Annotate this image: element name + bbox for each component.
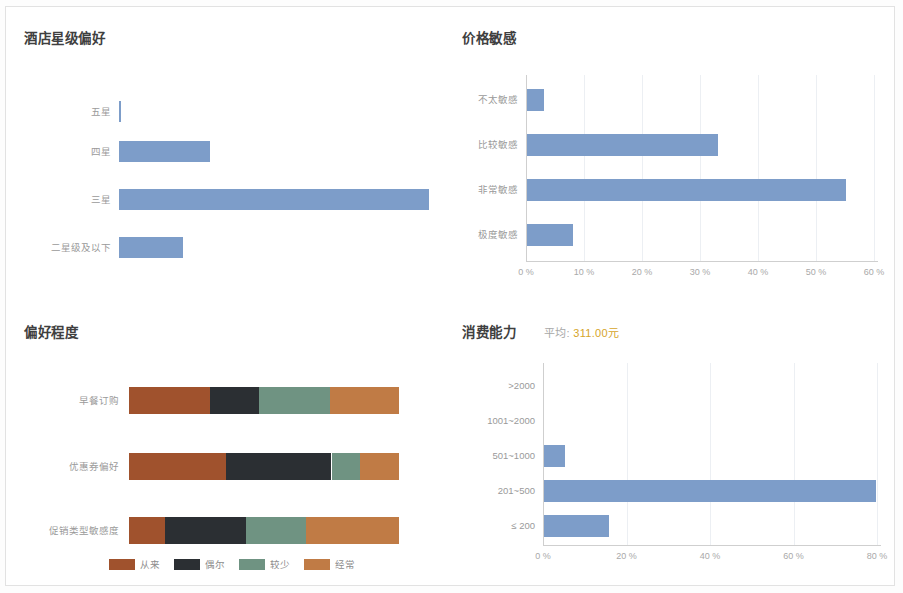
tick-label-price_sensitivity-1: 10 % <box>564 267 604 277</box>
gridline-80 <box>877 363 878 545</box>
legend-label-1: 偶尔 <box>205 557 225 571</box>
x-axis <box>543 545 881 546</box>
legend-label-2: 较少 <box>270 557 290 571</box>
gridline-40 <box>710 363 711 545</box>
tick-label-price_sensitivity-3: 30 % <box>680 267 720 277</box>
x-axis <box>526 261 878 262</box>
category-label-spending_power-0: >2000 <box>452 381 535 391</box>
tick-label-price_sensitivity-0: 0 % <box>506 267 546 277</box>
tick-label-spending_power-4: 80 % <box>857 551 897 561</box>
bar-spending_power-2 <box>544 445 565 467</box>
bar-spending_power-3 <box>544 480 876 502</box>
category-label-hotel-star-0: 五星 <box>14 107 111 117</box>
stack-segment-2-0 <box>129 517 165 544</box>
bar-spending_power-4 <box>544 515 609 537</box>
stacked-bar-row-1 <box>129 453 399 480</box>
legend-item-0[interactable]: 从来 <box>109 557 160 571</box>
legend-preference-degree: 从来偶尔较少经常 <box>14 557 450 571</box>
stack-segment-2-2 <box>246 517 305 544</box>
stack-segment-2-1 <box>165 517 246 544</box>
gridline-30 <box>700 75 701 261</box>
gridline-60 <box>794 363 795 545</box>
chart-price-sensitivity: 不太敏感比较敏感非常敏感极度敏感0 %10 %20 %30 %40 %50 %6… <box>452 75 888 297</box>
stack-segment-0-1 <box>210 387 259 414</box>
gridline-50 <box>816 75 817 261</box>
panel-spending-power: 消费能力 平均: 311.00元 >20001001~2000501~10002… <box>452 307 888 585</box>
legend-item-1[interactable]: 偶尔 <box>174 557 225 571</box>
stacked-bar-row-2 <box>129 517 399 544</box>
category-label-hotel-star-2: 三星 <box>14 195 111 205</box>
gridline-10 <box>584 75 585 261</box>
bar-hotel-star-3 <box>119 237 183 258</box>
category-label-price_sensitivity-0: 不太敏感 <box>452 95 518 105</box>
legend-item-2[interactable]: 较少 <box>239 557 290 571</box>
stacked-bar-row-0 <box>129 387 399 414</box>
category-label-spending_power-2: 501~1000 <box>452 451 535 461</box>
spending-average: 平均: 311.00元 <box>544 324 619 340</box>
panel-price-sensitivity: 价格敏感 不太敏感比较敏感非常敏感极度敏感0 %10 %20 %30 %40 %… <box>452 13 888 305</box>
category-label-preference-2: 促销类型敏感度 <box>14 526 119 536</box>
spending-average-unit: 元 <box>608 327 619 339</box>
category-label-spending_power-3: 201~500 <box>452 486 535 496</box>
category-label-hotel-star-1: 四星 <box>14 147 111 157</box>
stack-segment-1-0 <box>129 453 226 480</box>
tick-label-spending_power-1: 20 % <box>607 551 647 561</box>
category-label-spending_power-4: ≤ 200 <box>452 521 535 531</box>
category-label-preference-1: 优惠券偏好 <box>14 462 119 472</box>
panel-title-preference-degree: 偏好程度 <box>24 321 78 341</box>
stack-segment-2-3 <box>306 517 399 544</box>
category-label-preference-0: 早餐订购 <box>14 396 119 406</box>
bar-hotel-star-0 <box>119 101 121 122</box>
stack-segment-1-1 <box>226 453 331 480</box>
gridline-20 <box>627 363 628 545</box>
chart-hotel-star: 五星四星三星二星级及以下 <box>14 79 450 269</box>
dashboard-card: 酒店星级偏好 五星四星三星二星级及以下 价格敏感 不太敏感比较敏感非常敏感极度敏… <box>5 6 895 586</box>
category-label-price_sensitivity-3: 极度敏感 <box>452 230 518 240</box>
spending-average-value: 311.00 <box>573 327 608 339</box>
bar-price_sensitivity-0 <box>527 89 544 111</box>
tick-label-price_sensitivity-4: 40 % <box>738 267 778 277</box>
bar-hotel-star-2 <box>119 189 429 210</box>
panel-preference-degree: 偏好程度 早餐订购优惠券偏好促销类型敏感度 从来偶尔较少经常 <box>14 307 450 585</box>
legend-swatch-1 <box>174 559 200 570</box>
chart-spending-power: >20001001~2000501~1000201~500≤ 2000 %20 … <box>452 363 888 581</box>
legend-swatch-2 <box>239 559 265 570</box>
bar-hotel-star-1 <box>119 141 210 162</box>
stack-segment-0-3 <box>330 387 399 414</box>
panel-hotel-star: 酒店星级偏好 五星四星三星二星级及以下 <box>14 13 450 305</box>
panel-title-price-sensitivity: 价格敏感 <box>462 27 516 47</box>
legend-label-0: 从来 <box>140 557 160 571</box>
bar-price_sensitivity-2 <box>527 179 846 201</box>
chart-preference-degree: 早餐订购优惠券偏好促销类型敏感度 <box>14 365 450 545</box>
legend-swatch-3 <box>304 559 330 570</box>
bar-price_sensitivity-1 <box>527 134 718 156</box>
tick-label-spending_power-3: 60 % <box>774 551 814 561</box>
report-page: 酒店星级偏好 五星四星三星二星级及以下 价格敏感 不太敏感比较敏感非常敏感极度敏… <box>0 0 903 593</box>
panel-title-hotel-star: 酒店星级偏好 <box>24 27 105 47</box>
bar-price_sensitivity-3 <box>527 224 573 246</box>
stack-segment-1-3 <box>360 453 399 480</box>
category-label-price_sensitivity-1: 比较敏感 <box>452 140 518 150</box>
legend-label-3: 经常 <box>335 557 355 571</box>
tick-label-spending_power-0: 0 % <box>523 551 563 561</box>
stack-segment-0-2 <box>259 387 331 414</box>
chart-grid: 酒店星级偏好 五星四星三星二星级及以下 价格敏感 不太敏感比较敏感非常敏感极度敏… <box>6 7 894 585</box>
legend-swatch-0 <box>109 559 135 570</box>
gridline-20 <box>642 75 643 261</box>
tick-label-price_sensitivity-2: 20 % <box>622 267 662 277</box>
stack-segment-0-0 <box>129 387 210 414</box>
tick-label-price_sensitivity-5: 50 % <box>796 267 836 277</box>
gridline-40 <box>758 75 759 261</box>
tick-label-price_sensitivity-6: 60 % <box>854 267 894 277</box>
legend-item-3[interactable]: 经常 <box>304 557 355 571</box>
category-label-hotel-star-3: 二星级及以下 <box>14 243 111 253</box>
spending-average-label: 平均: <box>544 327 570 339</box>
gridline-60 <box>874 75 875 261</box>
tick-label-spending_power-2: 40 % <box>690 551 730 561</box>
category-label-spending_power-1: 1001~2000 <box>452 416 535 426</box>
category-label-price_sensitivity-2: 非常敏感 <box>452 185 518 195</box>
panel-title-spending-power: 消费能力 <box>462 321 516 341</box>
stack-segment-1-2 <box>332 453 360 480</box>
